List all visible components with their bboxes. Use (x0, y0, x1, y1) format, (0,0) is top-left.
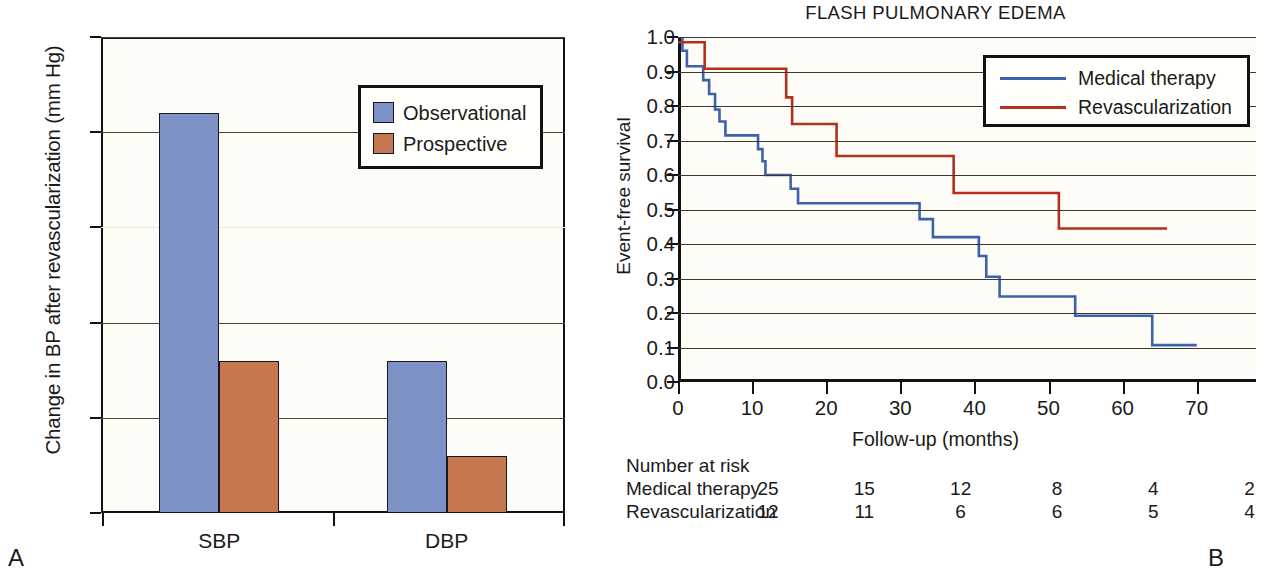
panel-b-y-tick-label: 0.1 (619, 336, 675, 360)
panel-b-survival-chart: FLASH PULMONARY EDEMA Event-free surviva… (600, 0, 1271, 582)
risk-table-value: 6 (941, 501, 981, 523)
panel-b-gridline (678, 313, 1256, 314)
legend-item-revascularization: Revascularization (1000, 93, 1247, 122)
panel-a-y-tickmark (90, 512, 101, 514)
panel-b-y-tick-label: 0.5 (619, 198, 675, 222)
panel-b-y-tick-label: 0.6 (619, 163, 675, 187)
panel-b-x-tick-label: 10 (712, 396, 792, 420)
panel-b-y-tick-label: 0.0 (619, 370, 675, 394)
panel-a-gridline (101, 37, 565, 38)
panel-b-x-tickmark (1123, 382, 1125, 394)
panel-b-y-tick-label: 0.4 (619, 232, 675, 256)
panel-b-x-tickmark (752, 382, 754, 394)
risk-table-value: 4 (1133, 478, 1173, 500)
risk-table-value: 6 (1037, 501, 1077, 523)
panel-a-x-label-sbp: SBP (139, 529, 299, 553)
legend-item-medical-therapy: Medical therapy (1000, 64, 1247, 93)
panel-a-x-tickmark (333, 513, 335, 526)
panel-b-x-tickmark (974, 382, 976, 394)
risk-table-value: 25 (748, 478, 788, 500)
risk-table-value: 12 (748, 501, 788, 523)
legend-swatch-observational (373, 102, 394, 123)
panel-b-x-tick-label: 70 (1157, 396, 1237, 420)
risk-table-rows: Medical therapy251512842Revascularizatio… (626, 478, 1266, 524)
panel-b-x-tick-label: 40 (934, 396, 1014, 420)
panel-a-y-tickmark (90, 131, 101, 133)
panel-b-x-tickmark (678, 382, 680, 394)
panel-b-x-tickmark (826, 382, 828, 394)
legend-label-prospective: Prospective (403, 134, 508, 154)
panel-b-title: FLASH PULMONARY EDEMA (600, 2, 1271, 24)
legend-item-observational: Observational (373, 97, 540, 128)
panel-b-y-tick-label: 1.0 (619, 25, 675, 49)
panel-b-gridline (678, 37, 1256, 38)
legend-line-revascularization (1000, 106, 1066, 109)
bar-sbp-observational (159, 113, 219, 513)
panel-a-y-tickmark (90, 417, 101, 419)
panel-b-gridline (678, 244, 1256, 245)
panel-b-x-tick-label: 60 (1083, 396, 1163, 420)
panel-b-y-tick-label: 0.9 (619, 60, 675, 84)
risk-table-value: 11 (844, 501, 884, 523)
panel-b-y-tick-label: 0.3 (619, 267, 675, 291)
panel-a-y-tickmark (90, 226, 101, 228)
panel-b-legend: Medical therapy Revascularization (983, 55, 1250, 127)
risk-table-value: 5 (1133, 501, 1173, 523)
panel-b-x-axis-label: Follow-up (months) (600, 428, 1271, 451)
legend-label-medical-therapy: Medical therapy (1078, 69, 1216, 89)
legend-label-observational: Observational (403, 103, 526, 123)
panel-b-x-tickmark (900, 382, 902, 394)
risk-table-value: 8 (1037, 478, 1077, 500)
panel-a-letter: A (8, 544, 24, 572)
panel-b-x-tick-label: 50 (1009, 396, 1089, 420)
risk-table-value: 2 (1230, 478, 1270, 500)
panel-b-gridline (678, 175, 1256, 176)
panel-b-y-tick-label: 0.2 (619, 301, 675, 325)
panel-b-x-tick-label: 30 (860, 396, 940, 420)
figure-root: Change in BP after revascularization (mm… (0, 0, 1271, 582)
panel-b-x-tick-label: 0 (638, 396, 718, 420)
panel-b-gridline (678, 279, 1256, 280)
panel-a-bar-chart: Change in BP after revascularization (mm… (0, 0, 600, 582)
panel-b-x-tickmark (1197, 382, 1199, 394)
bar-sbp-prospective (219, 361, 279, 513)
panel-a-x-label-dbp: DBP (367, 529, 527, 553)
panel-b-y-tick-label: 0.8 (619, 94, 675, 118)
legend-line-medical-therapy (1000, 77, 1066, 80)
legend-swatch-prospective (373, 133, 394, 154)
risk-table-value: 12 (941, 478, 981, 500)
panel-b-gridline (678, 141, 1256, 142)
bar-dbp-observational (387, 361, 447, 513)
panel-a-y-tickmark (90, 322, 101, 324)
panel-b-x-tick-label: 20 (786, 396, 866, 420)
panel-a-legend: Observational Prospective (358, 85, 543, 169)
panel-b-x-tickmark (1049, 382, 1051, 394)
risk-table-row-label: Medical therapy (626, 478, 760, 500)
bar-dbp-prospective (447, 456, 507, 513)
risk-table-header: Number at risk (626, 455, 1266, 477)
panel-b-risk-table: Number at risk Medical therapy251512842R… (626, 455, 1266, 524)
panel-b-gridline (678, 348, 1256, 349)
panel-b-gridline (678, 210, 1256, 211)
panel-a-x-tickmark (563, 513, 565, 526)
legend-item-prospective: Prospective (373, 128, 540, 159)
risk-table-value: 15 (844, 478, 884, 500)
panel-b-letter: B (1208, 544, 1224, 572)
risk-table-value: 4 (1230, 501, 1270, 523)
panel-a-x-tickmark (102, 513, 104, 526)
panel-b-y-tick-label: 0.7 (619, 129, 675, 153)
risk-table-row: Medical therapy251512842 (626, 478, 1266, 501)
risk-table-row: Revascularization12116654 (626, 501, 1266, 524)
panel-a-y-axis-label: Change in BP after revascularization (mm… (41, 15, 65, 485)
legend-label-revascularization: Revascularization (1078, 98, 1232, 118)
panel-a-y-tickmark (90, 36, 101, 38)
